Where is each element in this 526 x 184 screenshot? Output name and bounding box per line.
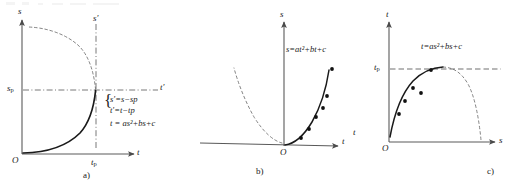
panel-a-dashed-curve (28, 27, 96, 90)
panel-a-aux-horizontal-label: t′ (160, 83, 164, 92)
panel-c-data-point (429, 68, 433, 72)
panel-a-equation-2: t′=t−tp (110, 105, 138, 116)
panel-a-equation-1: s′=s−sp (110, 94, 138, 105)
panel-b-data-point (321, 106, 325, 110)
panel-c-data-point (419, 91, 423, 95)
panel-a-y-tick-label: sp (7, 84, 14, 94)
panel-b-data-point (307, 127, 311, 131)
panel-c-data-point (411, 86, 415, 90)
panel-c-data-point (397, 112, 401, 116)
panel-a-x-tick-label: tp (91, 158, 97, 168)
panel-b-x-axis (200, 143, 338, 146)
panel-b-caption: b) (256, 166, 264, 176)
panel-b: s t O s=at²+bt+c b) (176, 0, 351, 184)
panel-c-solid-curve (390, 67, 443, 137)
panel-b-origin-label: O (280, 148, 287, 157)
panel-b-x-axis-label: t (342, 137, 345, 146)
panel-c-caption: c) (487, 166, 494, 176)
panel-a-aux-vertical-label: s′ (93, 14, 98, 23)
panel-a: s t s′ t′ O sp tp { s′=s−sp t′=t−tp t = … (0, 0, 176, 184)
panel-a-equation-group: s′=s−sp t′=t−tp (110, 94, 138, 117)
panel-a-origin-label: O (12, 156, 19, 165)
panel-a-y-axis-label: s (18, 7, 22, 16)
panel-a-caption: a) (83, 170, 90, 180)
panel-c-x-axis-label: s (499, 136, 503, 145)
panel-c-dashed-curve (443, 67, 481, 140)
panel-c-graphic (351, 0, 526, 184)
panel-c-stray-left-label: t (353, 128, 356, 137)
panel-b-data-point (314, 115, 318, 119)
panel-a-solid-curve (23, 91, 96, 154)
panel-c-y-tick-label: tp (374, 63, 380, 73)
panel-c-data-point (403, 99, 407, 103)
panel-b-dashed-curve (234, 68, 282, 143)
figure-root: s t s′ t′ O sp tp { s′=s−sp t′=t−tp t = … (0, 0, 526, 184)
panel-a-x-axis-label: t (137, 148, 140, 157)
panel-c-y-axis-label: t (386, 10, 389, 19)
panel-b-y-axis-label: s (280, 10, 284, 19)
panel-b-equation: s=at²+bt+c (286, 44, 326, 55)
panel-c-equation: t=as²+bs+c (421, 41, 462, 52)
panel-c: t s O tp t t=as²+bs+c c) (351, 0, 526, 184)
panel-b-data-point (299, 136, 303, 140)
panel-b-data-point (330, 67, 334, 71)
panel-c-origin-label: O (382, 144, 389, 153)
panel-b-data-point (325, 94, 329, 98)
panel-b-graphic (176, 0, 351, 184)
panel-a-graphic (0, 0, 176, 184)
panel-a-equation-3: t = as²+bs+c (110, 118, 155, 129)
